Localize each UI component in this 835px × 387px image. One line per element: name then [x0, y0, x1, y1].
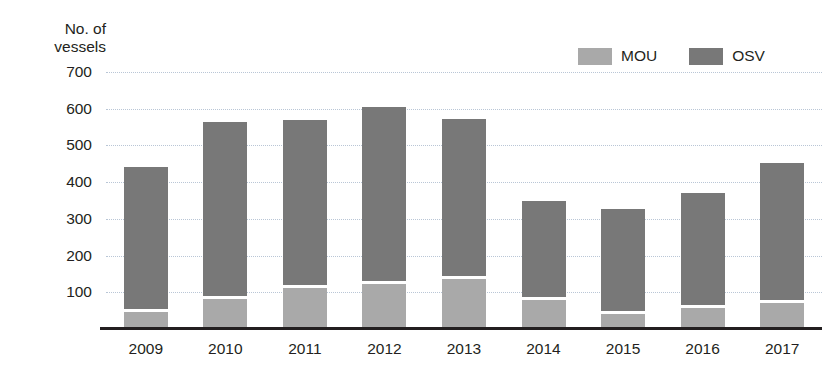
- y-tick-label: 500: [0, 137, 92, 153]
- y-tick-label: 400: [0, 174, 92, 190]
- x-tick-label: 2014: [522, 340, 566, 358]
- bar-segment-osv[interactable]: [442, 119, 486, 276]
- bar-column[interactable]: [124, 72, 168, 329]
- bar-column[interactable]: [283, 72, 327, 329]
- bar-segment-mou[interactable]: [760, 303, 804, 329]
- bar-segment-osv[interactable]: [760, 163, 804, 300]
- bar-segment-mou[interactable]: [203, 299, 247, 329]
- x-tick-label: 2017: [760, 340, 804, 358]
- bar-column[interactable]: [203, 72, 247, 329]
- legend-swatch-icon: [578, 48, 612, 65]
- x-tick-label: 2010: [203, 340, 247, 358]
- legend-item[interactable]: MOU: [578, 47, 657, 65]
- bar-segment-mou[interactable]: [681, 308, 725, 329]
- x-tick-label: 2011: [283, 340, 327, 358]
- legend-label: OSV: [732, 47, 765, 65]
- bar-segment-osv[interactable]: [203, 122, 247, 296]
- bar-segment-osv[interactable]: [601, 209, 645, 311]
- legend-item[interactable]: OSV: [689, 47, 765, 65]
- x-tick-label: 2012: [362, 340, 406, 358]
- x-tick-label: 2013: [442, 340, 486, 358]
- plot-area: [106, 72, 822, 329]
- bar-column[interactable]: [362, 72, 406, 329]
- x-tick-label: 2009: [124, 340, 168, 358]
- bar-segment-osv[interactable]: [522, 201, 566, 296]
- bar-segment-mou[interactable]: [283, 288, 327, 329]
- bar-column[interactable]: [522, 72, 566, 329]
- x-axis-line: [100, 327, 822, 330]
- y-axis-tick-labels: 700600500400300200100: [0, 0, 100, 387]
- legend-label: MOU: [621, 47, 657, 65]
- bar-segment-mou[interactable]: [522, 300, 566, 329]
- legend-swatch-icon: [689, 48, 723, 65]
- x-tick-label: 2015: [601, 340, 645, 358]
- x-axis-tick-labels: 200920102011201220132014201520162017: [106, 340, 822, 358]
- bar-segment-osv[interactable]: [124, 167, 168, 308]
- y-tick-label: 600: [0, 101, 92, 117]
- stacked-bar-chart: No. of vessels 700600500400300200100 200…: [0, 0, 835, 387]
- bar-column[interactable]: [601, 72, 645, 329]
- bar-group: [106, 72, 822, 329]
- bar-segment-osv[interactable]: [681, 193, 725, 305]
- bar-segment-mou[interactable]: [442, 279, 486, 329]
- bar-column[interactable]: [681, 72, 725, 329]
- bar-segment-mou[interactable]: [362, 284, 406, 329]
- bar-segment-osv[interactable]: [362, 107, 406, 281]
- bar-column[interactable]: [760, 72, 804, 329]
- x-tick-label: 2016: [681, 340, 725, 358]
- y-tick-label: 200: [0, 248, 92, 264]
- y-tick-label: 300: [0, 211, 92, 227]
- bar-column[interactable]: [442, 72, 486, 329]
- y-tick-label: 100: [0, 284, 92, 300]
- y-tick-label: 700: [0, 64, 92, 80]
- bar-segment-osv[interactable]: [283, 120, 327, 284]
- chart-legend: MOUOSV: [578, 47, 787, 65]
